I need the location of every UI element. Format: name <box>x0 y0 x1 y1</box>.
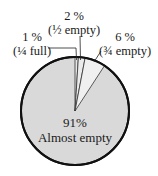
slice-1-desc: (¼ full) <box>13 44 51 58</box>
slice-3-desc: (¾ empty) <box>99 44 151 58</box>
main-slice-label: 91% Almost empty <box>20 115 130 145</box>
main-slice-percent: 91% <box>20 115 130 130</box>
slice-2-desc: (½ empty) <box>48 23 100 37</box>
slice-label-3: 6 % (¾ empty) <box>99 30 151 58</box>
slice-2-percent: 2 % <box>48 9 100 23</box>
leader-line-2 <box>80 36 81 60</box>
slice-1-percent: 1 % <box>13 30 51 44</box>
main-slice-desc: Almost empty <box>20 130 130 145</box>
slice-label-2: 2 % (½ empty) <box>48 9 100 37</box>
slice-label-1: 1 % (¼ full) <box>13 30 51 58</box>
slice-3-percent: 6 % <box>99 30 151 44</box>
